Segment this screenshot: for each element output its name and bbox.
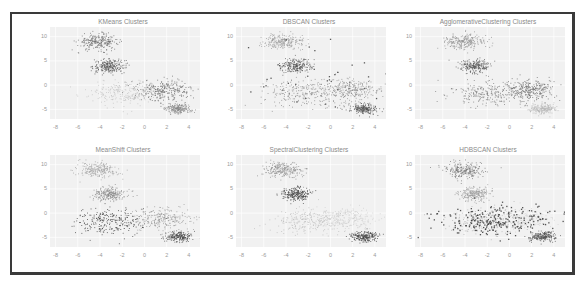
y-tick-label: 10	[35, 161, 47, 167]
cluster-points	[449, 57, 496, 74]
y-tick-label: 5	[221, 185, 233, 191]
x-tick-label: 2	[525, 252, 539, 258]
x-tick-label: -4	[279, 252, 293, 258]
cluster-points	[495, 74, 562, 106]
subplot-title: DBSCAN Clusters	[216, 18, 402, 25]
x-tick-label: 4	[182, 252, 196, 258]
scatter-svg	[415, 27, 565, 119]
cluster-points	[337, 102, 384, 117]
y-tick-label: -5	[400, 234, 412, 240]
plot-area	[415, 27, 565, 119]
x-tick-label: -2	[301, 124, 315, 130]
cluster-points	[257, 160, 307, 188]
y-tick-label: 5	[221, 57, 233, 63]
x-tick-label: -8	[49, 124, 63, 130]
cluster-points	[424, 201, 533, 240]
x-tick-label: -6	[71, 252, 85, 258]
subplot-agglomerative: AgglomerativeClustering Clusters 1050-5-…	[395, 18, 581, 142]
y-tick-label: 5	[35, 57, 47, 63]
subplot-dbscan: DBSCAN Clusters 1050-5-8-6-4-2024	[216, 18, 402, 142]
x-tick-label: -2	[480, 252, 494, 258]
scatter-svg	[50, 27, 200, 119]
x-tick-label: -8	[414, 252, 428, 258]
x-tick-label: -2	[301, 252, 315, 258]
scatter-svg	[236, 155, 386, 247]
cluster-points	[259, 31, 309, 50]
x-tick-label: 4	[182, 124, 196, 130]
y-tick-label: -5	[35, 106, 47, 112]
subplot-meanshift: MeanShift Clusters 1050-5-8-6-4-2024	[30, 146, 216, 270]
cluster-points	[72, 31, 122, 55]
plot-area	[236, 27, 386, 119]
x-tick-label: -4	[93, 252, 107, 258]
plot-area	[50, 155, 200, 247]
x-tick-label: -2	[115, 124, 129, 130]
x-tick-label: -4	[458, 252, 472, 258]
cluster-points	[455, 184, 494, 204]
x-tick-label: 0	[502, 124, 516, 130]
y-tick-label: -5	[221, 106, 233, 112]
x-tick-label: -6	[257, 124, 271, 130]
subplot-title: SpectralClustering Clusters	[216, 146, 402, 153]
x-tick-label: 0	[323, 124, 337, 130]
y-tick-label: 0	[400, 210, 412, 216]
x-tick-label: -2	[480, 124, 494, 130]
x-tick-label: 2	[160, 124, 174, 130]
x-tick-label: -8	[49, 252, 63, 258]
y-tick-label: 10	[35, 33, 47, 39]
scatter-svg	[236, 27, 386, 119]
y-tick-label: 0	[35, 210, 47, 216]
x-tick-label: 0	[323, 252, 337, 258]
y-tick-label: 5	[400, 185, 412, 191]
x-tick-label: 4	[547, 124, 561, 130]
y-tick-label: 0	[400, 82, 412, 88]
cluster-points	[71, 159, 128, 182]
cluster-points	[277, 186, 317, 205]
plot-area	[415, 155, 565, 247]
x-tick-label: -8	[414, 124, 428, 130]
y-tick-label: 10	[221, 33, 233, 39]
y-tick-label: -5	[35, 234, 47, 240]
y-tick-label: 5	[400, 57, 412, 63]
cluster-points	[90, 184, 138, 202]
cluster-points	[254, 199, 358, 236]
x-tick-label: -4	[279, 124, 293, 130]
x-tick-label: 4	[368, 124, 382, 130]
x-tick-label: 0	[502, 252, 516, 258]
y-tick-label: 10	[400, 33, 412, 39]
x-tick-label: 0	[137, 252, 151, 258]
subplot-kmeans: KMeans Clusters 1050-5-8-6-4-2024	[30, 18, 216, 142]
x-tick-label: -8	[235, 252, 249, 258]
cluster-points	[122, 204, 199, 238]
subplot-title: MeanShift Clusters	[30, 146, 216, 153]
subplot-hdbscan: HDBSCAN Clusters 1050-5-8-6-4-2024	[395, 146, 581, 270]
x-tick-label: -6	[71, 124, 85, 130]
x-tick-label: -4	[93, 124, 107, 130]
scatter-svg	[50, 155, 200, 247]
x-tick-label: 4	[547, 252, 561, 258]
x-tick-label: -8	[235, 124, 249, 130]
cluster-points	[122, 76, 199, 107]
y-tick-label: 5	[35, 185, 47, 191]
y-tick-label: -5	[221, 234, 233, 240]
subplot-title: HDBSCAN Clusters	[395, 146, 581, 153]
y-tick-label: 10	[221, 161, 233, 167]
y-tick-label: 0	[221, 82, 233, 88]
x-tick-label: 2	[346, 252, 360, 258]
subplot-title: KMeans Clusters	[30, 18, 216, 25]
x-tick-label: -2	[115, 252, 129, 258]
cluster-points	[277, 55, 314, 76]
x-tick-label: 2	[346, 124, 360, 130]
plot-area	[236, 155, 386, 247]
cluster-points	[430, 160, 502, 184]
scatter-svg	[415, 155, 565, 247]
cluster-points	[346, 228, 384, 243]
cluster-points	[163, 102, 196, 115]
x-tick-label: 2	[525, 124, 539, 130]
x-tick-label: -6	[257, 252, 271, 258]
x-tick-label: 4	[368, 252, 382, 258]
subplot-title: AgglomerativeClustering Clusters	[395, 18, 581, 25]
x-tick-label: -4	[458, 124, 472, 130]
x-tick-label: 0	[137, 124, 151, 130]
x-tick-label: 2	[160, 252, 174, 258]
